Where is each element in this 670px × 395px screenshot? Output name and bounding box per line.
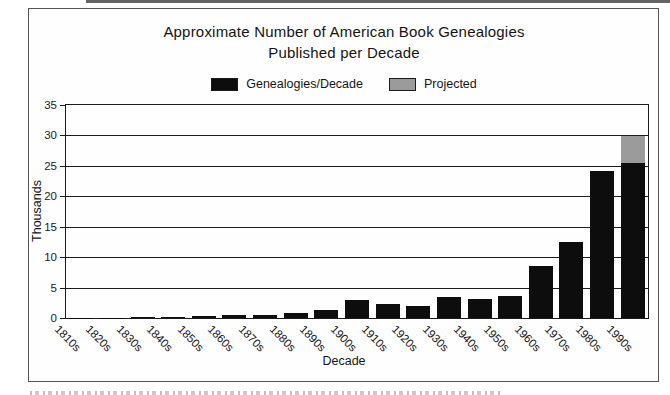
bar-1950s (498, 296, 522, 318)
y-tick-label-0: 0 (28, 311, 57, 325)
legend-swatch-gray (389, 78, 416, 91)
x-tick-label-1990s: 1990s (604, 323, 635, 354)
y-tick-label-20: 20 (28, 189, 57, 203)
gridline-25 (66, 166, 648, 167)
bar-1940s (468, 299, 492, 318)
bar-projected-1990s (621, 135, 645, 162)
x-tick-label-1830s: 1830s (114, 323, 145, 354)
chart-title: Approximate Number of American Book Gene… (28, 21, 660, 63)
x-tick-label-1860s: 1860s (206, 323, 237, 354)
bar-1960s (529, 266, 553, 318)
bar-1930s (437, 297, 461, 318)
scan-artifact-cropped-caption (30, 391, 500, 395)
x-axis-title: Decade (28, 354, 660, 368)
bar-1990s (621, 163, 645, 318)
gridline-30 (66, 135, 648, 136)
y-tick-label-25: 25 (28, 159, 57, 173)
legend-item-projected: Projected (389, 77, 477, 91)
bar-1880s (284, 313, 308, 318)
bar-1900s (345, 300, 369, 318)
x-tick-label-1970s: 1970s (543, 323, 574, 354)
x-tick-label-1950s: 1950s (482, 323, 513, 354)
y-tick-label-30: 30 (28, 128, 57, 142)
scan-artifact-top-strip (86, 0, 670, 3)
bar-1890s (314, 310, 338, 318)
y-tick-label-15: 15 (28, 220, 57, 234)
chart-title-line1: Approximate Number of American Book Gene… (28, 21, 660, 42)
x-tick-label-1940s: 1940s (451, 323, 482, 354)
x-tick-label-1840s: 1840s (145, 323, 176, 354)
x-tick-label-1910s: 1910s (359, 323, 390, 354)
gridline-15 (66, 227, 648, 228)
x-tick-label-1890s: 1890s (298, 323, 329, 354)
x-tick-label-1850s: 1850s (175, 323, 206, 354)
x-tick-label-1880s: 1880s (267, 323, 298, 354)
bar-1840s (161, 317, 185, 318)
legend-swatch-black (211, 78, 238, 91)
x-tick-label-1980s: 1980s (574, 323, 605, 354)
y-tick-label-10: 10 (28, 250, 57, 264)
y-tick-label-35: 35 (28, 98, 57, 112)
gridline-20 (66, 196, 648, 197)
bar-1920s (406, 306, 430, 318)
x-tick-label-1900s: 1900s (329, 323, 360, 354)
y-axis-tick-labels: 05101520253035 (28, 105, 57, 318)
bar-1830s (131, 317, 155, 318)
x-tick-label-1930s: 1930s (420, 323, 451, 354)
plot-area (65, 104, 649, 319)
legend-label-genealogies: Genealogies/Decade (246, 77, 363, 91)
y-tick-mark-0 (60, 318, 66, 319)
bar-1910s (376, 304, 400, 318)
bar-1850s (192, 316, 216, 318)
x-tick-label-1920s: 1920s (390, 323, 421, 354)
legend-label-projected: Projected (424, 77, 477, 91)
x-tick-label-1960s: 1960s (512, 323, 543, 354)
y-tick-mark-35 (60, 105, 66, 106)
chart-title-line2: Published per Decade (28, 42, 660, 63)
legend: Genealogies/Decade Projected (28, 77, 660, 91)
bar-1870s (253, 315, 277, 318)
figure-scan: Approximate Number of American Book Gene… (0, 0, 670, 395)
bar-1860s (222, 315, 246, 318)
bar-1980s (590, 171, 614, 318)
x-tick-label-1870s: 1870s (237, 323, 268, 354)
bar-1970s (559, 242, 583, 318)
legend-item-genealogies: Genealogies/Decade (211, 77, 363, 91)
x-tick-label-1820s: 1820s (83, 323, 114, 354)
y-tick-label-5: 5 (28, 281, 57, 295)
